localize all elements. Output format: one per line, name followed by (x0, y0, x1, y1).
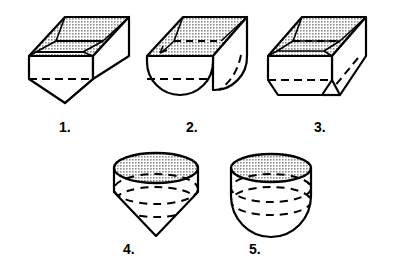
figure-3-front-face (268, 56, 332, 95)
figure-2-box-with-rounded-bottom (147, 17, 247, 95)
figure-4-label: 4. (123, 242, 135, 256)
figure-1-box-with-wedge-bottom (29, 17, 129, 103)
figure-3-label: 3. (314, 120, 326, 134)
figure-3-box-with-truncated-wedge-bottom (268, 17, 366, 95)
figure-2-front-rounded-face (147, 56, 213, 95)
figure-5-label: 5. (249, 242, 261, 256)
figure-5-cylinder-with-hemisphere-bottom (231, 154, 311, 237)
figure-4-cylinder-with-cone-bottom (114, 153, 198, 236)
figure-5-top-opening (231, 154, 311, 182)
figure-2-label: 2. (186, 120, 198, 134)
figure-1-label: 1. (59, 120, 71, 134)
